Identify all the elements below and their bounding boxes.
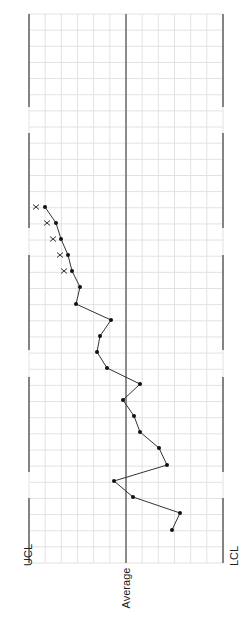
x-marker-icon	[50, 237, 56, 242]
lcl-label: LCL	[228, 546, 240, 566]
data-point	[66, 253, 70, 257]
data-point	[95, 350, 99, 354]
data-point	[170, 528, 174, 532]
data-points	[43, 205, 182, 532]
data-point	[54, 221, 58, 225]
data-point	[132, 414, 136, 418]
control-chart: UCL Average LCL	[0, 0, 249, 635]
data-point	[109, 318, 113, 322]
data-point	[78, 285, 82, 289]
data-point	[157, 446, 161, 450]
data-point	[59, 237, 63, 241]
data-point	[112, 479, 116, 483]
data-point	[98, 334, 102, 338]
data-point	[43, 205, 47, 209]
data-point	[121, 398, 125, 402]
data-point	[178, 511, 182, 515]
x-marker-icon	[33, 205, 39, 210]
data-point	[105, 366, 109, 370]
data-point	[70, 269, 74, 273]
data-point	[74, 302, 78, 306]
data-point	[138, 382, 142, 386]
ucl-label: UCL	[22, 544, 34, 566]
data-point	[131, 495, 135, 499]
data-point	[165, 463, 169, 467]
x-marker-icon	[57, 253, 63, 258]
data-point	[138, 430, 142, 434]
average-label: Average	[120, 568, 132, 609]
